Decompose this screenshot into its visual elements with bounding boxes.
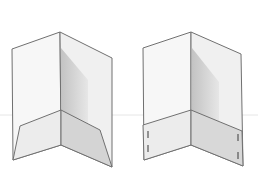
- right-folder: [143, 32, 243, 166]
- illustration: [0, 0, 258, 175]
- left-folder: [12, 32, 112, 167]
- folders-drawing: [0, 0, 258, 175]
